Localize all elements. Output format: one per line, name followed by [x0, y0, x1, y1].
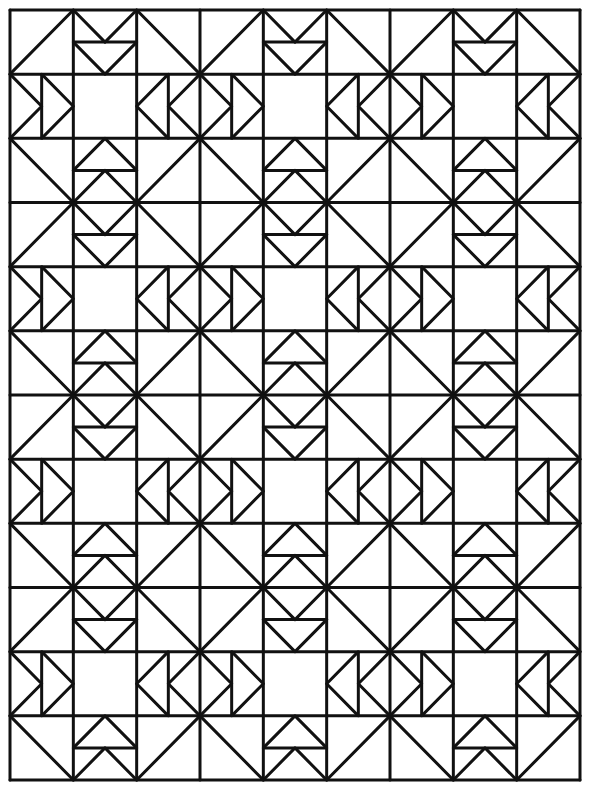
- flying-goose-top: [73, 395, 136, 427]
- corner-diagonal: [137, 588, 200, 652]
- flying-goose-left: [232, 652, 264, 716]
- flying-goose-top: [73, 588, 136, 620]
- corner-diagonal: [10, 523, 73, 587]
- flying-goose-right: [517, 74, 549, 138]
- corner-diagonal: [10, 588, 73, 652]
- flying-goose-right: [137, 459, 169, 523]
- flying-goose-top: [453, 588, 516, 620]
- flying-goose-right: [137, 74, 169, 138]
- corner-diagonal: [517, 10, 580, 74]
- corner-diagonal: [137, 331, 200, 395]
- flying-goose-top: [263, 10, 326, 42]
- corner-diagonal: [517, 138, 580, 202]
- flying-goose-left: [232, 267, 264, 331]
- corner-diagonal: [200, 203, 263, 267]
- flying-goose-bottom: [453, 523, 516, 555]
- corner-diagonal: [517, 395, 580, 459]
- corner-diagonal: [327, 523, 390, 587]
- flying-goose-top: [73, 427, 136, 459]
- flying-goose-right: [137, 267, 169, 331]
- flying-goose-right: [358, 74, 390, 138]
- flying-goose-bottom: [73, 716, 136, 748]
- flying-goose-top: [453, 10, 516, 42]
- corner-diagonal: [10, 203, 73, 267]
- flying-goose-top: [263, 620, 326, 652]
- corner-diagonal: [390, 523, 453, 587]
- flying-goose-right: [168, 267, 200, 331]
- flying-goose-right: [168, 74, 200, 138]
- flying-goose-left: [200, 74, 232, 138]
- flying-goose-bottom: [73, 363, 136, 395]
- flying-goose-top: [263, 42, 326, 74]
- flying-goose-left: [390, 459, 422, 523]
- corner-diagonal: [200, 523, 263, 587]
- corner-diagonal: [390, 203, 453, 267]
- flying-goose-top: [73, 42, 136, 74]
- flying-goose-top: [453, 427, 516, 459]
- flying-goose-left: [422, 74, 454, 138]
- corner-diagonal: [10, 138, 73, 202]
- corner-diagonal: [327, 10, 390, 74]
- flying-goose-left: [422, 267, 454, 331]
- corner-diagonal: [390, 716, 453, 780]
- corner-diagonal: [10, 331, 73, 395]
- flying-goose-right: [358, 459, 390, 523]
- flying-goose-top: [453, 203, 516, 235]
- flying-goose-left: [10, 652, 42, 716]
- flying-goose-bottom: [453, 555, 516, 587]
- corner-diagonal: [10, 395, 73, 459]
- flying-goose-bottom: [453, 170, 516, 202]
- flying-goose-left: [390, 267, 422, 331]
- flying-goose-top: [453, 42, 516, 74]
- flying-goose-right: [517, 652, 549, 716]
- flying-goose-bottom: [73, 138, 136, 170]
- corner-diagonal: [200, 10, 263, 74]
- flying-goose-right: [548, 267, 580, 331]
- flying-goose-bottom: [73, 555, 136, 587]
- corner-diagonal: [200, 395, 263, 459]
- flying-goose-top: [453, 235, 516, 267]
- flying-goose-bottom: [73, 331, 136, 363]
- flying-goose-right: [327, 74, 359, 138]
- flying-goose-left: [422, 459, 454, 523]
- corner-diagonal: [517, 523, 580, 587]
- corner-diagonal: [200, 138, 263, 202]
- corner-diagonal: [137, 138, 200, 202]
- flying-goose-top: [73, 620, 136, 652]
- flying-goose-right: [548, 652, 580, 716]
- corner-diagonal: [327, 588, 390, 652]
- flying-goose-right: [517, 459, 549, 523]
- flying-goose-left: [42, 652, 74, 716]
- flying-goose-top: [73, 10, 136, 42]
- quilt-pattern: [0, 0, 594, 788]
- corner-diagonal: [10, 10, 73, 74]
- corner-diagonal: [390, 331, 453, 395]
- flying-goose-top: [263, 395, 326, 427]
- flying-goose-right: [548, 459, 580, 523]
- flying-goose-right: [358, 267, 390, 331]
- flying-goose-left: [232, 74, 264, 138]
- corner-diagonal: [327, 138, 390, 202]
- corner-diagonal: [137, 716, 200, 780]
- corner-diagonal: [200, 331, 263, 395]
- flying-goose-right: [327, 652, 359, 716]
- flying-goose-left: [42, 74, 74, 138]
- corner-diagonal: [137, 203, 200, 267]
- flying-goose-left: [200, 267, 232, 331]
- flying-goose-bottom: [263, 170, 326, 202]
- flying-goose-left: [390, 74, 422, 138]
- corner-diagonal: [390, 10, 453, 74]
- flying-goose-right: [327, 267, 359, 331]
- flying-goose-top: [263, 235, 326, 267]
- flying-goose-right: [548, 74, 580, 138]
- corner-diagonal: [517, 716, 580, 780]
- flying-goose-bottom: [263, 748, 326, 780]
- corner-diagonal: [200, 588, 263, 652]
- corner-diagonal: [517, 203, 580, 267]
- corner-diagonal: [10, 716, 73, 780]
- flying-goose-top: [263, 427, 326, 459]
- flying-goose-left: [200, 459, 232, 523]
- flying-goose-bottom: [263, 331, 326, 363]
- flying-goose-bottom: [73, 523, 136, 555]
- flying-goose-left: [232, 459, 264, 523]
